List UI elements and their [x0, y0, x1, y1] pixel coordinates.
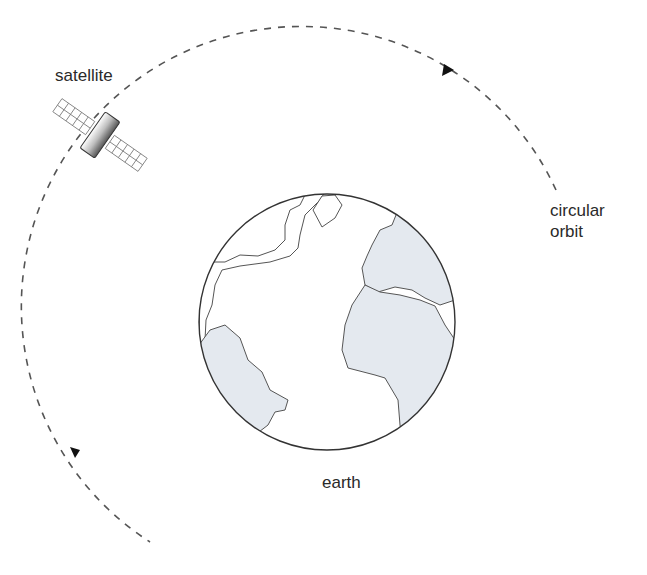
satellite-icon — [45, 87, 155, 183]
earth-globe — [199, 190, 455, 450]
orbit-label-line2: orbit — [550, 222, 583, 242]
satellite-label: satellite — [55, 66, 113, 86]
earth-label: earth — [322, 473, 361, 493]
orbit-arrow-top-icon — [442, 64, 454, 76]
orbit-arrow-left-icon — [70, 447, 80, 458]
orbit-label-line1: circular — [550, 201, 605, 221]
